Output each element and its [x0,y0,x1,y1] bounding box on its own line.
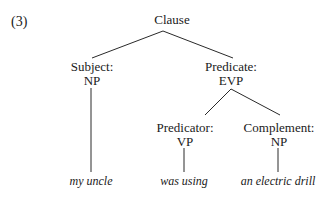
node-subject: Subject: NP [71,60,114,88]
subject-function: Subject: [71,60,114,74]
branch-clause-predicate [163,31,233,58]
example-number: (3) [11,14,27,30]
node-complement: Complement: NP [244,121,315,149]
complement-category: NP [244,135,315,149]
branch-predicate-complement [231,89,280,115]
predicate-function: Predicate: [205,60,257,74]
leaf-subject: my uncle [70,174,113,188]
branch-predicate-predicator [205,89,231,115]
branch-clause-subject [92,31,163,58]
node-predicate: Predicate: EVP [205,60,257,88]
subject-category: NP [71,74,114,88]
leaf-predicator: was using [160,174,208,188]
leaf-complement: an electric drill [241,174,316,188]
node-predicator: Predicator: VP [156,121,213,149]
predicator-function: Predicator: [156,121,213,135]
node-clause: Clause [154,13,189,27]
predicate-category: EVP [205,74,257,88]
complement-function: Complement: [244,121,315,135]
predicator-category: VP [156,135,213,149]
